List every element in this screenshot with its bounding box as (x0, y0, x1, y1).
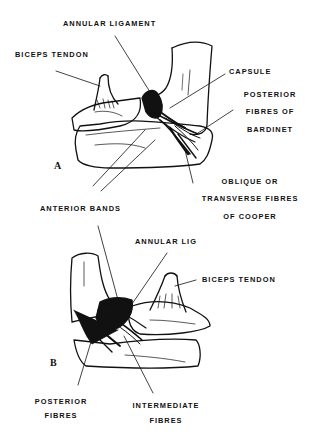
label-oblique-fibres-cooper-2: TRANSVERSE FIBRES (190, 193, 310, 205)
label-oblique-fibres-cooper-1: OBLIQUE OR (190, 176, 310, 188)
panel-letter-a: A (54, 160, 61, 171)
label-biceps-tendon-b: BICEPS TENDON (202, 274, 276, 286)
panel-letter-b: B (50, 357, 57, 368)
label-posterior-fibres-bardinet-2: FIBRES OF (236, 106, 304, 118)
label-oblique-fibres-cooper-3: OF COOPER (190, 211, 310, 223)
label-posterior-fibres-bardinet-1: POSTERIOR (236, 89, 304, 101)
label-annular-ligament: ANNULAR LIGAMENT (63, 18, 156, 30)
label-biceps-tendon-a: BICEPS TENDON (15, 49, 89, 61)
label-posterior-fibres-2: FIBRES (26, 410, 96, 422)
label-anterior-bands: ANTERIOR BANDS (40, 203, 121, 215)
label-annular-lig: ANNULAR LIG (135, 236, 197, 248)
label-posterior-fibres-bardinet-3: BARDINET (236, 124, 304, 136)
panel-b-drawing (71, 226, 211, 393)
label-intermediate-fibres-2: FIBRES (125, 415, 207, 427)
label-posterior-fibres-1: POSTERIOR (26, 396, 96, 408)
faint-caption-cutoff (12, 429, 242, 433)
label-capsule: CAPSULE (229, 66, 271, 78)
label-intermediate-fibres-1: INTERMEDIATE (125, 400, 207, 412)
